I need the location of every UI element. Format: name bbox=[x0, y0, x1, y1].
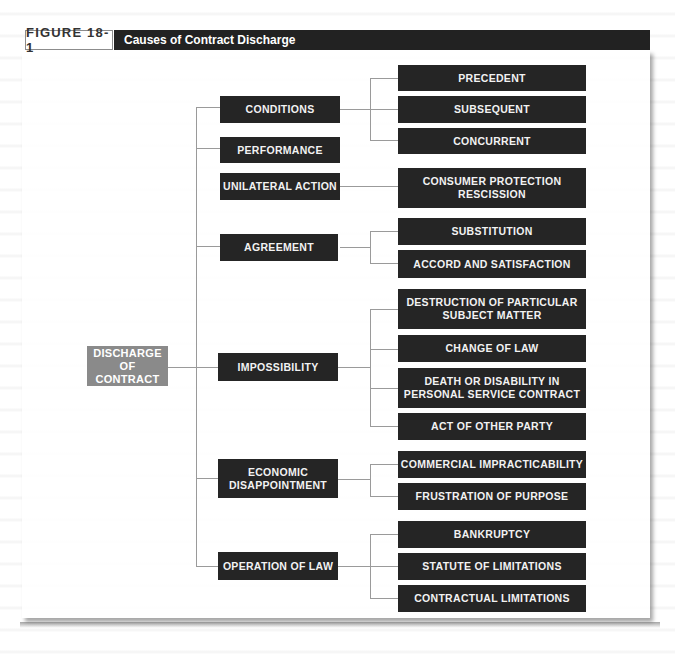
root-node-discharge-of-contract: DISCHARGE OF CONTRACT bbox=[87, 346, 168, 386]
connector-impossibility-branch bbox=[370, 309, 371, 426]
leaf-label-line1: DEATH OR DISABILITY IN bbox=[404, 375, 580, 388]
category-label: AGREEMENT bbox=[244, 241, 314, 254]
connector-impossibility-out bbox=[338, 367, 370, 368]
leaf-substitution: SUBSTITUTION bbox=[398, 218, 586, 245]
category-unilateral-action: UNILATERAL ACTION bbox=[220, 173, 340, 200]
leaf-precedent: PRECEDENT bbox=[398, 65, 586, 91]
category-economic-disappointment: ECONOMIC DISAPPOINTMENT bbox=[218, 459, 338, 498]
connector-frustration bbox=[370, 496, 398, 497]
leaf-destruction-of-subject-matter: DESTRUCTION OF PARTICULAR SUBJECT MATTER bbox=[398, 289, 586, 329]
connector-precedent bbox=[370, 78, 398, 79]
category-label: UNILATERAL ACTION bbox=[223, 180, 337, 193]
leaf-label: COMMERCIAL IMPRACTICABILITY bbox=[401, 458, 583, 471]
connector-destruction bbox=[370, 309, 398, 310]
leaf-label: ACT OF OTHER PARTY bbox=[431, 420, 553, 433]
category-label: PERFORMANCE bbox=[237, 144, 323, 157]
connector-agreement-branch bbox=[370, 231, 371, 263]
connector-concurrent bbox=[370, 140, 398, 141]
figure-number: FIGURE 18-1 bbox=[25, 30, 113, 50]
connector-operation bbox=[196, 566, 220, 567]
leaf-act-of-other-party: ACT OF OTHER PARTY bbox=[398, 413, 586, 440]
leaf-label: ACCORD AND SATISFACTION bbox=[413, 258, 570, 271]
connector-performance bbox=[196, 148, 220, 149]
connector-bankruptcy bbox=[370, 534, 398, 535]
connector-subsequent bbox=[370, 109, 398, 110]
connector-economic-out bbox=[338, 479, 370, 480]
leaf-frustration-of-purpose: FRUSTRATION OF PURPOSE bbox=[398, 483, 586, 510]
connector-change-law bbox=[370, 349, 398, 350]
leaf-label-line1: DESTRUCTION OF PARTICULAR bbox=[406, 296, 577, 309]
connector-economic bbox=[196, 478, 220, 479]
connector-conditions bbox=[196, 107, 220, 108]
leaf-consumer-protection-rescission: CONSUMER PROTECTION RESCISSION bbox=[398, 168, 586, 208]
leaf-label-line2: PERSONAL SERVICE CONTRACT bbox=[404, 388, 580, 401]
leaf-label: CONCURRENT bbox=[453, 135, 531, 148]
leaf-commercial-impracticability: COMMERCIAL IMPRACTICABILITY bbox=[398, 451, 586, 478]
leaf-contractual-limitations: CONTRACTUAL LIMITATIONS bbox=[398, 585, 586, 612]
leaf-label: BANKRUPTCY bbox=[454, 528, 531, 541]
connector-contractual bbox=[370, 598, 398, 599]
leaf-label: PRECEDENT bbox=[458, 72, 525, 85]
leaf-label-line2: SUBJECT MATTER bbox=[406, 309, 577, 322]
connector-economic-branch bbox=[370, 464, 371, 496]
category-label: OPERATION OF LAW bbox=[223, 560, 333, 573]
leaf-label-line2: RESCISSION bbox=[423, 188, 562, 201]
leaf-accord-and-satisfaction: ACCORD AND SATISFACTION bbox=[398, 250, 586, 278]
connector-accord bbox=[370, 263, 398, 264]
connector-death bbox=[370, 388, 398, 389]
figure-title-text: Causes of Contract Discharge bbox=[124, 33, 295, 47]
leaf-concurrent: CONCURRENT bbox=[398, 128, 586, 154]
leaf-label: FRUSTRATION OF PURPOSE bbox=[416, 490, 569, 503]
connector-agreement-out bbox=[340, 247, 370, 248]
connector-agreement bbox=[196, 246, 220, 247]
connector-commercial bbox=[370, 464, 398, 465]
leaf-label: STATUTE OF LIMITATIONS bbox=[422, 560, 561, 573]
category-impossibility: IMPOSSIBILITY bbox=[218, 353, 338, 381]
category-label: CONDITIONS bbox=[246, 103, 315, 116]
connector-substitution bbox=[370, 231, 398, 232]
panel-shadow bbox=[20, 622, 660, 628]
leaf-label-line1: CONSUMER PROTECTION bbox=[423, 175, 562, 188]
leaf-label: CHANGE OF LAW bbox=[445, 342, 538, 355]
category-label-line1: ECONOMIC bbox=[229, 466, 327, 479]
connector-conditions-out bbox=[340, 109, 370, 110]
category-label-line2: DISAPPOINTMENT bbox=[229, 479, 327, 492]
connector-unilateral-out bbox=[340, 186, 398, 187]
leaf-death-or-disability: DEATH OR DISABILITY IN PERSONAL SERVICE … bbox=[398, 368, 586, 408]
connector-operation-out bbox=[338, 566, 370, 567]
leaf-statute-of-limitations: STATUTE OF LIMITATIONS bbox=[398, 553, 586, 580]
leaf-change-of-law: CHANGE OF LAW bbox=[398, 335, 586, 362]
connector-act-other bbox=[370, 426, 398, 427]
connector-root bbox=[168, 367, 196, 368]
leaf-label: SUBSTITUTION bbox=[451, 225, 532, 238]
leaf-label: CONTRACTUAL LIMITATIONS bbox=[414, 592, 570, 605]
leaf-subsequent: SUBSEQUENT bbox=[398, 96, 586, 123]
category-operation-of-law: OPERATION OF LAW bbox=[218, 552, 338, 580]
connector-spine bbox=[196, 107, 197, 566]
category-performance: PERFORMANCE bbox=[220, 137, 340, 163]
connector-impossibility bbox=[196, 367, 220, 368]
root-label-line1: DISCHARGE bbox=[87, 347, 168, 360]
root-label-line2: OF CONTRACT bbox=[87, 360, 168, 386]
connector-statute bbox=[370, 566, 398, 567]
category-conditions: CONDITIONS bbox=[220, 96, 340, 123]
figure-title: Causes of Contract Discharge bbox=[114, 30, 650, 50]
category-agreement: AGREEMENT bbox=[220, 234, 338, 261]
leaf-label: SUBSEQUENT bbox=[454, 103, 530, 116]
category-label: IMPOSSIBILITY bbox=[238, 361, 319, 374]
leaf-bankruptcy: BANKRUPTCY bbox=[398, 521, 586, 548]
